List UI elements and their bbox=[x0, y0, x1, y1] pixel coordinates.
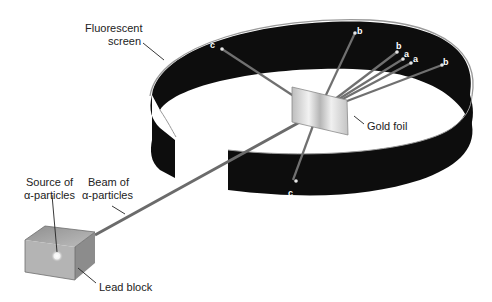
mark-c-top: c bbox=[210, 40, 215, 50]
label-fluorescent-screen-line2: screen bbox=[108, 35, 141, 47]
label-fluorescent-screen-line1: Fluorescent bbox=[85, 22, 142, 34]
fluorescent-screen-left-segment bbox=[150, 95, 176, 178]
mark-b-2: b bbox=[396, 41, 402, 51]
diagram: c b b a a b c Fluorescent screen Gold fo… bbox=[0, 0, 492, 302]
mark-b-1: b bbox=[357, 26, 363, 36]
fluorescent-screen-right-segment bbox=[228, 95, 473, 195]
label-gold-foil: Gold foil bbox=[367, 120, 407, 132]
lead-block bbox=[25, 226, 95, 280]
gold-foil bbox=[292, 87, 348, 135]
label-beam-line2: α-particles bbox=[82, 189, 133, 201]
label-beam-line1: Beam of bbox=[88, 176, 130, 188]
label-source-line1: Source of bbox=[26, 176, 74, 188]
label-source-line2: α-particles bbox=[24, 189, 75, 201]
mark-c-bottom: c bbox=[288, 188, 293, 198]
mark-b-3: b bbox=[443, 57, 449, 67]
label-lead-block: Lead block bbox=[99, 281, 153, 293]
